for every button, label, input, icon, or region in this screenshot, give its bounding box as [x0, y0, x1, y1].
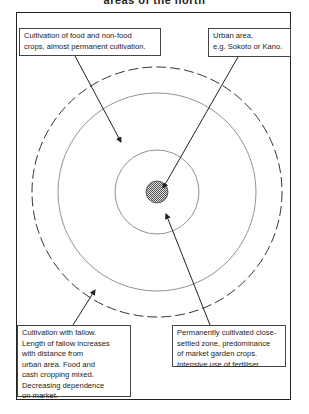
label-line: Urban area, — [213, 31, 286, 42]
label-line: urban area. Food and — [22, 360, 126, 371]
label-line: of market garden crops. — [177, 349, 281, 360]
label-line: Length of fallow increases — [22, 339, 126, 350]
label-permanent-cultivation: Cultivation of food and non-food crops, … — [19, 28, 161, 56]
label-fallow-cultivation: Cultivation with fallow. Length of fallo… — [17, 325, 131, 397]
arrow-close-settled — [166, 214, 210, 325]
label-line: Intensive use of fertiliser. — [177, 360, 281, 371]
label-close-settled: Permanently cultivated close- settled zo… — [172, 325, 286, 367]
arrow-urban-area — [163, 57, 238, 188]
arrow-permanent-cultivation — [75, 56, 121, 142]
label-line: Cultivation of food and non-food — [24, 31, 156, 42]
arrow-fallow-cultivation — [73, 290, 95, 325]
label-urban-area: Urban area, e.g. Sokoto or Kano. — [208, 28, 291, 57]
label-line: on market. — [22, 391, 126, 402]
label-line: Permanently cultivated close- — [177, 328, 281, 339]
label-line: Decreasing dependence — [22, 381, 126, 392]
label-line: settled zone, predominance — [177, 339, 281, 350]
label-line: Cultivation with fallow. — [22, 328, 126, 339]
label-line: cash cropping mixed. — [22, 370, 126, 381]
label-line: crops, almost permanent cultivation. — [24, 42, 156, 53]
label-line: with distance from — [22, 349, 126, 360]
label-line: e.g. Sokoto or Kano. — [213, 42, 286, 53]
